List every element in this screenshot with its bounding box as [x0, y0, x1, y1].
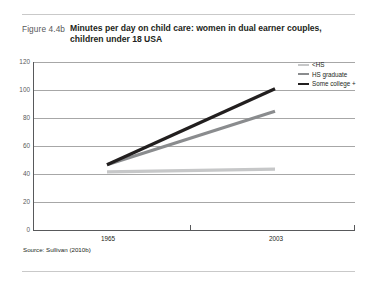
legend-swatch-icon-hs-graduate	[298, 73, 309, 75]
chart-legend: <HS HS graduate Some college +	[298, 60, 374, 89]
page-title: Minutes per day on child care: women in …	[70, 23, 338, 46]
legend-swatch-icon-some-college	[298, 83, 309, 85]
y-tick-label-120: 120	[10, 59, 30, 65]
top-divider	[22, 14, 355, 15]
legend-item-hs-graduate: HS graduate	[298, 70, 374, 80]
y-tick-label-0: 0	[10, 227, 30, 233]
series-line-hs-graduate	[107, 111, 275, 165]
bottom-divider	[22, 271, 355, 272]
series-line-lt-hs	[107, 169, 275, 172]
figure-title-row: Figure 4.4b Minutes per day on child car…	[22, 23, 362, 46]
legend-label-lt-hs: <HS	[312, 61, 324, 68]
y-tick-label-60: 60	[10, 143, 30, 149]
figure-page: Figure 4.4b Minutes per day on child car…	[0, 0, 377, 287]
y-tick-label-40: 40	[10, 171, 30, 177]
legend-label-some-college: Some college +	[312, 80, 356, 87]
x-tick-label-1965: 1965	[88, 236, 128, 242]
source-note: Source: Sullivan (2010b)	[23, 246, 91, 253]
x-tick-label-2003: 2003	[256, 236, 296, 242]
legend-item-some-college: Some college +	[298, 79, 374, 89]
legend-item-lt-hs: <HS	[298, 60, 374, 70]
y-tick-label-20: 20	[10, 199, 30, 205]
legend-swatch-icon-lt-hs	[298, 64, 309, 66]
y-tick-label-100: 100	[10, 87, 30, 93]
figure-number: Figure 4.4b	[22, 23, 65, 34]
series-line-some-college	[107, 89, 275, 165]
legend-label-hs-graduate: HS graduate	[312, 71, 347, 78]
y-tick-label-80: 80	[10, 115, 30, 121]
